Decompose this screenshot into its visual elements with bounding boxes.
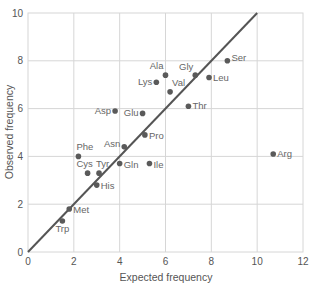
- scatter-chart: 0246810120246810 TrpMetHisCysTyrPheGlnAs…: [0, 0, 320, 290]
- data-point-leu: Leu: [206, 72, 229, 83]
- y-tick-label: 0: [17, 247, 23, 258]
- x-tick-label: 4: [117, 256, 123, 267]
- point-label: Gly: [179, 61, 194, 72]
- point-label: Met: [73, 204, 89, 215]
- y-tick-label: 6: [17, 103, 23, 114]
- x-tick-label: 12: [297, 256, 309, 267]
- diagonal-line: [28, 13, 257, 252]
- point-label: Val: [172, 77, 185, 88]
- y-tick-label: 2: [17, 199, 23, 210]
- y-tick-label: 4: [17, 151, 23, 162]
- x-tick-label: 2: [71, 256, 77, 267]
- point-marker: [112, 108, 118, 114]
- point-label: Leu: [213, 72, 229, 83]
- data-point-thr: Thr: [186, 100, 207, 111]
- point-marker: [140, 111, 146, 117]
- point-marker: [225, 58, 231, 64]
- point-marker: [117, 161, 123, 167]
- point-label: Ala: [150, 60, 164, 71]
- point-label: Pro: [149, 130, 164, 141]
- point-label: Lys: [138, 76, 153, 87]
- x-tick-label: 0: [25, 256, 31, 267]
- data-point-ile: Ile: [147, 159, 164, 170]
- point-label: Phe: [76, 141, 93, 152]
- data-point-met: Met: [66, 204, 89, 215]
- point-marker: [147, 161, 153, 167]
- point-label: Thr: [192, 100, 206, 111]
- point-marker: [154, 80, 160, 86]
- reference-line: [28, 13, 257, 252]
- data-point-arg: Arg: [270, 148, 292, 159]
- point-label: Ile: [153, 159, 163, 170]
- point-marker: [66, 206, 72, 212]
- point-label: Ser: [231, 52, 246, 63]
- point-marker: [85, 170, 91, 176]
- point-label: Arg: [277, 148, 292, 159]
- point-label: His: [101, 180, 115, 191]
- point-label: Gln: [124, 159, 139, 170]
- data-point-pro: Pro: [142, 130, 164, 141]
- point-marker: [76, 154, 82, 160]
- data-point-ser: Ser: [225, 52, 247, 64]
- point-marker: [186, 103, 192, 109]
- y-tick-label: 10: [12, 8, 24, 19]
- point-marker: [206, 75, 212, 81]
- chart-svg: 0246810120246810 TrpMetHisCysTyrPheGlnAs…: [0, 0, 320, 290]
- point-marker: [94, 182, 100, 188]
- x-tick-label: 6: [163, 256, 169, 267]
- x-axis-label: Expected frequency: [120, 271, 214, 283]
- data-point-asp: Asp: [95, 105, 118, 116]
- data-point-his: His: [94, 180, 115, 191]
- data-point-asn: Asn: [104, 138, 127, 150]
- point-label: Cys: [76, 158, 93, 169]
- grid: [28, 13, 303, 252]
- data-points: TrpMetHisCysTyrPheGlnAsnIleProAspGluThrV…: [55, 52, 292, 234]
- point-marker: [167, 89, 173, 95]
- point-marker: [96, 170, 102, 176]
- data-point-lys: Lys: [138, 76, 159, 87]
- point-label: Glu: [124, 107, 139, 118]
- y-axis-label: Observed frequency: [3, 84, 15, 179]
- x-tick-label: 10: [252, 256, 264, 267]
- point-marker: [270, 151, 276, 157]
- point-label: Trp: [55, 223, 69, 234]
- data-point-gly: Gly: [179, 61, 198, 78]
- point-marker: [121, 144, 127, 150]
- y-tick-label: 8: [17, 55, 23, 66]
- point-label: Asn: [104, 138, 120, 149]
- point-marker: [142, 132, 148, 138]
- point-marker: [163, 72, 169, 78]
- point-label: Asp: [95, 105, 111, 116]
- x-tick-label: 8: [209, 256, 215, 267]
- data-point-cys: Cys: [76, 158, 93, 176]
- point-label: Tyr: [96, 158, 109, 169]
- point-marker: [192, 72, 198, 78]
